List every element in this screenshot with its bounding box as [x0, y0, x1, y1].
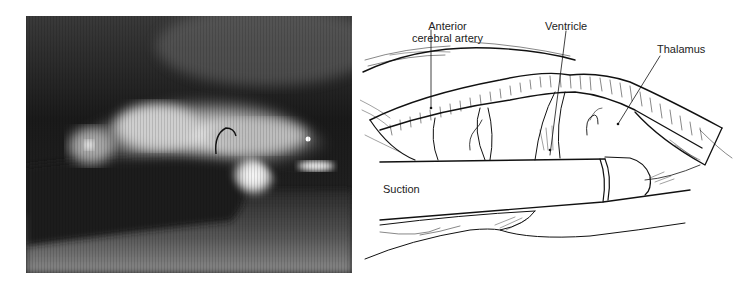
label-ventricle: Ventricle	[545, 20, 587, 32]
label-anterior-cerebral-artery: Anterior cerebral artery	[412, 20, 483, 44]
anatomical-illustration: Anterior cerebral artery Ventricle Thala…	[360, 0, 747, 281]
label-line: cerebral artery	[412, 32, 483, 44]
label-suction: Suction	[383, 183, 420, 195]
endoscopic-photo	[26, 16, 352, 273]
label-thalamus: Thalamus	[657, 43, 705, 55]
label-line: Anterior	[412, 20, 483, 32]
